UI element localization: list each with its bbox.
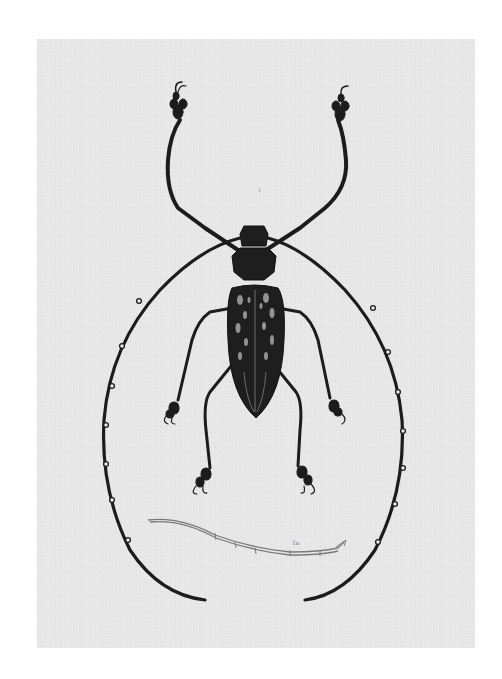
middle-tarsus-right xyxy=(329,400,345,424)
middle-tarsus-left xyxy=(164,402,179,424)
antenna-detail-figure xyxy=(148,519,346,556)
middle-leg-left xyxy=(178,308,232,400)
antenna-right xyxy=(268,238,402,600)
figure-mark-1: 1 xyxy=(258,187,261,193)
hind-leg-left xyxy=(205,360,236,468)
front-leg-left xyxy=(168,120,238,250)
middle-leg-right xyxy=(278,308,330,398)
front-tarsus-left xyxy=(170,82,187,119)
hind-tarsus-right xyxy=(297,466,315,494)
front-tarsus-right xyxy=(332,86,349,121)
head xyxy=(240,226,268,246)
figure-label-antenna: 1a xyxy=(292,539,299,546)
front-leg-right xyxy=(266,120,346,250)
hind-tarsus-left xyxy=(193,468,211,494)
thorax xyxy=(232,248,276,280)
beetle-illustration xyxy=(0,0,502,679)
